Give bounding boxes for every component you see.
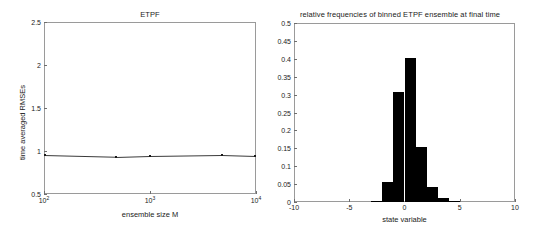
right-ytick-0.05: 0.05	[271, 181, 291, 188]
right-ytick-0.25: 0.25	[271, 109, 291, 116]
left-yaxis-label: time averaged RMSEs	[18, 85, 27, 160]
hist-bar	[371, 201, 382, 202]
left-ytick-2: 2	[24, 62, 41, 69]
panel-etpf-rmse: ETPF 2.5 2 1.5 1 0.5 102 103 104 ensembl…	[0, 0, 270, 236]
hist-bar	[449, 201, 460, 202]
right-xtick-5: 5	[458, 204, 462, 211]
series-marker	[254, 155, 256, 157]
series-segment	[150, 155, 222, 157]
right-ytick-0.4: 0.4	[271, 55, 291, 62]
right-ytick-0.2: 0.2	[271, 127, 291, 134]
right-xtick-10: 10	[511, 204, 519, 211]
hist-bar	[438, 198, 449, 202]
panel-etpf-histogram: relative frequencies of binned ETPF ense…	[270, 0, 540, 236]
right-xtick-mark-10	[515, 199, 516, 202]
series-marker	[44, 154, 46, 156]
left-xtick-mark-1e4	[256, 191, 257, 194]
left-xaxis-label: ensemble size M	[44, 210, 256, 219]
series-segment	[44, 155, 116, 158]
right-plot-title: relative frequencies of binned ETPF ense…	[280, 10, 520, 19]
right-ytick-0.3: 0.3	[271, 91, 291, 98]
series-segment	[116, 156, 150, 158]
right-ytick-0.15: 0.15	[271, 145, 291, 152]
right-xaxis-label: state variable	[294, 215, 515, 224]
figure-canvas: ETPF 2.5 2 1.5 1 0.5 102 103 104 ensembl…	[0, 0, 540, 236]
right-ytick-0.45: 0.45	[271, 37, 291, 44]
right-xtick--10: -10	[289, 204, 299, 211]
left-plot-title: ETPF	[44, 10, 256, 19]
right-ytick-0.1: 0.1	[271, 163, 291, 170]
right-xtick-0: 0	[403, 204, 407, 211]
left-xtick-1e4: 104	[251, 197, 262, 204]
left-ytick-2.5: 2.5	[24, 19, 41, 26]
hist-bar	[416, 147, 427, 202]
hist-bar	[393, 92, 404, 202]
series-segment	[222, 155, 256, 157]
right-data-area	[295, 24, 514, 202]
right-xtick--5: -5	[346, 204, 352, 211]
right-ytick-0.35: 0.35	[271, 73, 291, 80]
left-xtick-1e3: 103	[145, 197, 156, 204]
hist-bar	[427, 187, 438, 202]
right-ytick-0.5: 0.5	[271, 20, 291, 27]
series-marker	[115, 156, 117, 158]
left-xtick-1e2: 102	[39, 197, 50, 204]
series-marker	[149, 155, 151, 157]
hist-bar	[382, 182, 393, 202]
left-data-area	[44, 22, 256, 194]
hist-bar	[405, 58, 416, 202]
series-marker	[221, 154, 223, 156]
right-ytick-mark-0	[294, 202, 297, 203]
